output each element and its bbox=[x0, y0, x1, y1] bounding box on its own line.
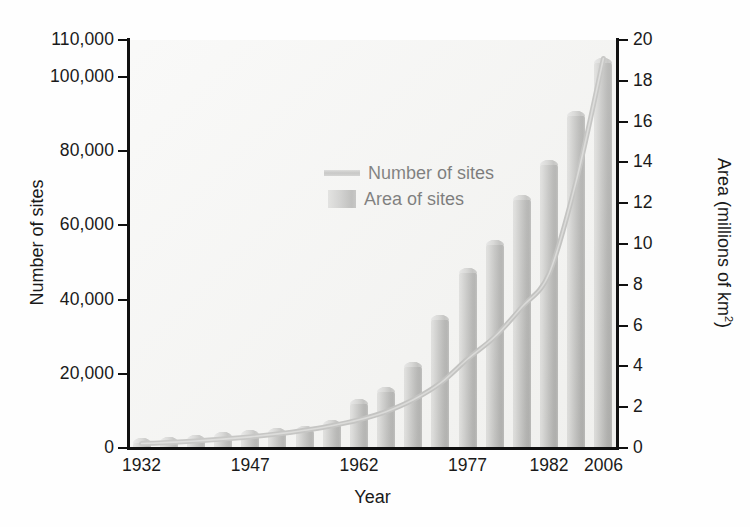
y-axis-left-tick bbox=[118, 150, 127, 152]
y-axis-left-tick-label: 110,000 bbox=[51, 29, 114, 50]
y-axis-left-tick-label: 40,000 bbox=[60, 289, 114, 310]
y-axis-left-tick-label: 60,000 bbox=[60, 214, 114, 235]
y-axis-right-tick-label: 8 bbox=[633, 274, 643, 295]
y-axis-left-tick-label: 80,000 bbox=[60, 140, 114, 161]
y-axis-right-tick-label: 4 bbox=[633, 355, 643, 376]
legend-item-area-of-sites: Area of sites bbox=[324, 186, 494, 212]
y-axis-left-line bbox=[127, 38, 130, 450]
y-axis-right-tick bbox=[619, 243, 628, 245]
x-axis-tick-label: 1977 bbox=[428, 455, 508, 476]
y-axis-left-tick-label: 100,000 bbox=[50, 66, 114, 87]
y-axis-left-tick bbox=[118, 76, 127, 78]
y-axis-right-tick bbox=[619, 406, 628, 408]
y-axis-right-tick-label: 16 bbox=[633, 111, 653, 132]
y-axis-left-tick bbox=[118, 299, 127, 301]
y-axis-right-title-text: Area (millions of km bbox=[714, 158, 734, 316]
chart-figure: Number of sites Area of sites 020,00040,… bbox=[0, 0, 750, 527]
y-axis-right-tick bbox=[619, 284, 628, 286]
y-axis-right-tick bbox=[619, 202, 628, 204]
y-axis-left-tick bbox=[118, 373, 127, 375]
y-axis-left-tick bbox=[118, 224, 127, 226]
y-axis-right-tick bbox=[619, 161, 628, 163]
y-axis-right-tick bbox=[619, 447, 628, 449]
line-series-number-of-sites bbox=[128, 40, 617, 448]
y-axis-left-tick-label: 20,000 bbox=[60, 363, 114, 384]
y-axis-left-title: Number of sites bbox=[27, 143, 48, 343]
y-axis-right-tick bbox=[619, 121, 628, 123]
y-axis-right-title: Area (millions of km2) bbox=[713, 123, 735, 363]
legend-item-number-of-sites: Number of sites bbox=[324, 160, 494, 186]
legend-label-area-of-sites: Area of sites bbox=[364, 189, 464, 210]
y-axis-left-tick bbox=[118, 447, 127, 449]
y-axis-right-tick-label: 18 bbox=[633, 70, 653, 91]
x-axis-title: Year bbox=[128, 487, 617, 508]
y-axis-right-tick-label: 10 bbox=[633, 233, 653, 254]
y-axis-right-title-suffix: ) bbox=[714, 322, 734, 328]
x-axis-tick-label: 2006 bbox=[563, 455, 643, 476]
y-axis-right-tick-label: 2 bbox=[633, 396, 643, 417]
legend-label-number-of-sites: Number of sites bbox=[368, 163, 494, 184]
y-axis-right-tick bbox=[619, 39, 628, 41]
x-axis-tick-label: 1962 bbox=[319, 455, 399, 476]
y-axis-right-tick bbox=[619, 80, 628, 82]
x-axis-tick-label: 1947 bbox=[210, 455, 290, 476]
x-axis-line bbox=[127, 447, 619, 450]
y-axis-right-tick-label: 12 bbox=[633, 192, 653, 213]
line-path bbox=[142, 59, 604, 444]
legend-bar-swatch-icon bbox=[328, 190, 356, 208]
y-axis-right-tick bbox=[619, 325, 628, 327]
legend-line-swatch-icon bbox=[324, 170, 360, 176]
y-axis-right-tick bbox=[619, 365, 628, 367]
y-axis-left-tick bbox=[118, 39, 127, 41]
y-axis-right-tick-label: 14 bbox=[633, 151, 653, 172]
y-axis-right-tick-label: 20 bbox=[633, 29, 653, 50]
line-path-highlight bbox=[142, 59, 604, 444]
plot-area: Number of sites Area of sites bbox=[128, 40, 617, 448]
chart-legend: Number of sites Area of sites bbox=[324, 160, 494, 212]
x-axis-tick-label: 1932 bbox=[102, 455, 182, 476]
y-axis-right-tick-label: 6 bbox=[633, 315, 643, 336]
